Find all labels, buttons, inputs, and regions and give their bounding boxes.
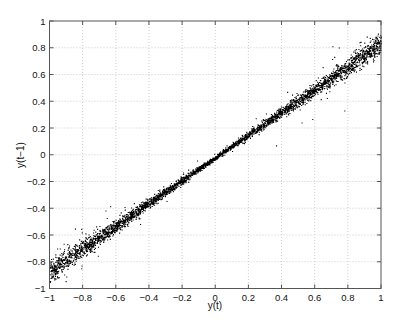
x-tick-label: 0.6 — [308, 292, 321, 303]
y-tick-label: −0.2 — [27, 176, 46, 187]
x-tick-label: 0.4 — [275, 292, 288, 303]
y-tick-label: −0.8 — [27, 256, 46, 267]
x-tick-label: −1 — [44, 292, 55, 303]
x-tick-label: 1 — [378, 292, 383, 303]
y-tick-label: 0.4 — [32, 96, 45, 107]
x-tick-label: −0.4 — [140, 292, 159, 303]
y-axis-label: y(t−1) — [15, 142, 26, 168]
y-tick-label: 0.6 — [32, 69, 45, 80]
scatter-figure: −1−0.8−0.6−0.4−0.200.20.40.60.81 −1−0.8−… — [0, 0, 401, 326]
x-axis-label: y(t) — [208, 300, 222, 311]
scatter-plot: −1−0.8−0.6−0.4−0.200.20.40.60.81 −1−0.8−… — [0, 0, 401, 326]
x-tick-label: 0.2 — [242, 292, 255, 303]
y-tick-label: −1 — [35, 283, 46, 294]
x-tick-label: −0.6 — [106, 292, 125, 303]
y-tick-label: 1 — [40, 16, 45, 27]
y-tick-label: 0.2 — [32, 123, 45, 134]
y-tick-label: 0.8 — [32, 42, 45, 53]
y-tick-label: −0.4 — [27, 203, 46, 214]
y-tick-label: 0 — [40, 149, 45, 160]
y-tick-label: −0.6 — [27, 230, 46, 241]
x-tick-label: −0.8 — [73, 292, 92, 303]
x-tick-label: 0.8 — [341, 292, 354, 303]
x-tick-label: −0.2 — [173, 292, 192, 303]
